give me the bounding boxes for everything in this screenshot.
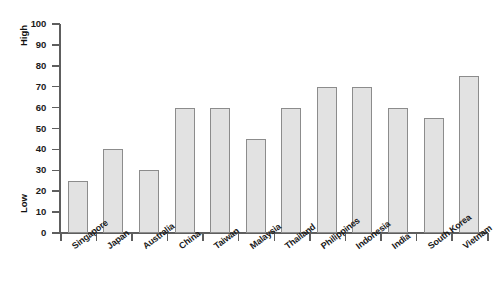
y-axis-tick-label: 50 — [16, 124, 46, 134]
y-axis-high-annotation: High — [18, 23, 29, 49]
bar — [210, 108, 230, 233]
y-axis-tick — [52, 65, 60, 67]
y-axis-tick — [52, 149, 60, 151]
y-axis-low-annotation: Low — [18, 191, 29, 217]
bar — [139, 170, 159, 233]
y-axis-tick — [52, 86, 60, 88]
x-axis-tick — [416, 233, 418, 241]
plot-area — [60, 24, 487, 233]
y-axis-tick — [52, 128, 60, 130]
x-axis-label-india: India — [390, 231, 412, 251]
bar — [388, 108, 408, 233]
bar — [317, 87, 337, 233]
bar — [246, 139, 266, 233]
y-axis-tick-label: 60 — [16, 103, 46, 113]
x-axis-tick — [60, 233, 62, 241]
y-axis-tick — [52, 232, 60, 234]
bar — [281, 108, 301, 233]
y-axis-tick — [52, 107, 60, 109]
y-axis-tick — [52, 211, 60, 213]
y-axis-tick — [52, 44, 60, 46]
y-axis-tick — [52, 170, 60, 172]
bar-chart: 0102030405060708090100 SingaporeJapanAus… — [0, 0, 498, 296]
y-axis-tick — [52, 23, 60, 25]
bar — [459, 76, 479, 233]
bar — [175, 108, 195, 233]
x-axis-tick — [202, 233, 204, 241]
y-axis-tick — [52, 190, 60, 192]
y-axis-tick-label: 40 — [16, 144, 46, 154]
y-axis-tick-label: 0 — [16, 228, 46, 238]
y-axis-tick-label: 80 — [16, 61, 46, 71]
y-axis-tick-label: 30 — [16, 165, 46, 175]
bar — [68, 181, 88, 233]
y-axis-tick-label: 70 — [16, 82, 46, 92]
bar — [352, 87, 372, 233]
x-axis-tick — [131, 233, 133, 241]
bar — [424, 118, 444, 233]
